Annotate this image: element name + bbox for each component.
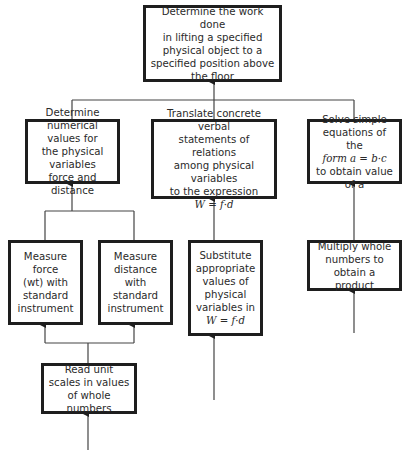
node-goal-text: Determine the work done in lifting a spe…: [149, 5, 276, 83]
node-substitute-text: Substitute appropriate values of physica…: [196, 249, 255, 314]
node-solve-formula: form a = b·c: [322, 152, 386, 165]
node-measure-distance: Measure distance with standard instrumen…: [98, 240, 173, 325]
node-multiply: Multiply whole numbers to obtain a produ…: [307, 240, 402, 291]
node-read-scales-text: Read unit scales in values of whole numb…: [47, 363, 131, 415]
node-translate-text: Translate concrete verbal statements of …: [157, 107, 271, 198]
node-solve-tail: to obtain value of a: [313, 165, 396, 191]
node-measure-force: Measure force (wt) with standard instrum…: [8, 240, 83, 325]
node-determine-numerical: Determine numerical values for the physi…: [25, 119, 120, 184]
node-substitute: Substitute appropriate values of physica…: [188, 240, 263, 336]
node-solve-text: Solve simple equations of the: [313, 113, 396, 152]
node-goal: Determine the work done in lifting a spe…: [143, 5, 282, 82]
node-multiply-text: Multiply whole numbers to obtain a produ…: [313, 240, 396, 292]
node-numerical-text: Determine numerical values for the physi…: [31, 106, 114, 197]
node-translate-formula: W = f·d: [194, 198, 233, 211]
node-solve: Solve simple equations of the form a = b…: [307, 119, 402, 184]
node-measure-force-text: Measure force (wt) with standard instrum…: [14, 250, 77, 315]
node-translate: Translate concrete verbal statements of …: [151, 119, 277, 199]
node-measure-distance-text: Measure distance with standard instrumen…: [108, 250, 164, 315]
node-read-scales: Read unit scales in values of whole numb…: [41, 363, 137, 414]
node-substitute-formula: W = f·d: [206, 314, 245, 327]
